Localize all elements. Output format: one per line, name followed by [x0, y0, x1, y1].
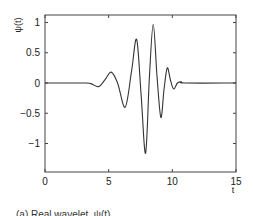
y-tick-label: 0 — [34, 78, 40, 89]
y-tick-label: 0.5 — [26, 47, 40, 58]
x-axis-ticks: 051015 — [42, 15, 242, 187]
wavelet-line — [45, 24, 236, 153]
y-tick-label: −0.5 — [20, 108, 40, 119]
figure-caption: (a) Real wavelet, ψ(t) — [16, 209, 110, 216]
y-tick-label: −1 — [29, 138, 41, 149]
x-tick-label: 0 — [42, 176, 48, 187]
x-tick-label: 5 — [106, 176, 112, 187]
y-axis-label: ψ(t) — [13, 18, 23, 33]
chart: 051015 10.50−0.5−1 t ψ(t) — [0, 0, 253, 216]
x-tick-label: 10 — [167, 176, 179, 187]
y-tick-label: 1 — [34, 17, 40, 28]
